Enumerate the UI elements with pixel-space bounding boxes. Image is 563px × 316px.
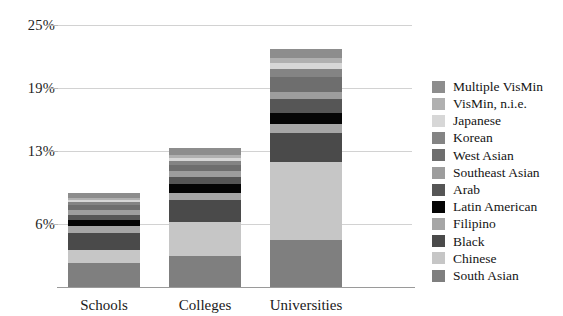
- gridline-19: [57, 88, 412, 89]
- legend-item-label: Korean: [453, 131, 493, 145]
- bar-colleges[interactable]: [169, 148, 241, 287]
- y-axis-labels: 25%19%13%6%: [0, 0, 55, 316]
- legend-item[interactable]: West Asian: [432, 147, 563, 164]
- chart-legend: Multiple VisMinVisMin, n.i.e.JapaneseKor…: [432, 78, 563, 284]
- legend-item[interactable]: South Asian: [432, 267, 563, 284]
- legend-swatch-icon: [432, 252, 445, 264]
- bar-segment[interactable]: [270, 113, 342, 123]
- bar-segment[interactable]: [68, 250, 140, 263]
- y-tick-mark: [48, 224, 58, 225]
- bar-segment[interactable]: [270, 77, 342, 92]
- bar-segment[interactable]: [270, 240, 342, 287]
- gridline-25: [57, 25, 412, 26]
- y-tick-mark: [48, 25, 58, 26]
- legend-item[interactable]: Arab: [432, 181, 563, 198]
- x-axis-line: [57, 287, 415, 288]
- plot-area: [57, 0, 415, 316]
- legend-item-label: Filipino: [453, 217, 496, 231]
- bar-segment[interactable]: [169, 184, 241, 192]
- legend-item[interactable]: Southeast Asian: [432, 164, 563, 181]
- legend-swatch-icon: [432, 149, 445, 161]
- legend-item-label: Black: [453, 235, 485, 249]
- x-axis-label-universities: Universities: [246, 297, 366, 314]
- legend-item[interactable]: Filipino: [432, 216, 563, 233]
- bar-segment[interactable]: [270, 69, 342, 77]
- bar-segment[interactable]: [270, 133, 342, 162]
- legend-swatch-icon: [432, 184, 445, 196]
- bar-universities[interactable]: [270, 49, 342, 287]
- bar-segment[interactable]: [68, 263, 140, 287]
- legend-item-label: Japanese: [453, 114, 501, 128]
- bar-segment[interactable]: [169, 177, 241, 184]
- bar-segment[interactable]: [169, 256, 241, 287]
- bar-segment[interactable]: [270, 124, 342, 133]
- legend-item[interactable]: Multiple VisMin: [432, 78, 563, 95]
- legend-swatch-icon: [432, 201, 445, 213]
- legend-item-label: VisMin, n.i.e.: [453, 97, 527, 111]
- legend-swatch-icon: [432, 218, 445, 230]
- legend-item[interactable]: Japanese: [432, 112, 563, 129]
- bar-segment[interactable]: [270, 162, 342, 240]
- bar-segment[interactable]: [270, 49, 342, 57]
- legend-swatch-icon: [432, 115, 445, 127]
- legend-swatch-icon: [432, 132, 445, 144]
- stacked-bar-chart: 25%19%13%6% SchoolsCollegesUniversities …: [0, 0, 563, 316]
- legend-item-label: Southeast Asian: [453, 166, 540, 180]
- legend-swatch-icon: [432, 167, 445, 179]
- legend-item[interactable]: Korean: [432, 130, 563, 147]
- legend-swatch-icon: [432, 270, 445, 282]
- bar-segment[interactable]: [169, 193, 241, 200]
- legend-item-label: West Asian: [453, 149, 514, 163]
- legend-item[interactable]: Black: [432, 233, 563, 250]
- legend-swatch-icon: [432, 235, 445, 247]
- bar-segment[interactable]: [169, 200, 241, 222]
- legend-swatch-icon: [432, 81, 445, 93]
- legend-item[interactable]: Chinese: [432, 250, 563, 267]
- y-tick-mark: [48, 151, 58, 152]
- legend-item-label: Latin American: [453, 200, 537, 214]
- bar-segment[interactable]: [68, 233, 140, 251]
- bar-segment[interactable]: [169, 148, 241, 155]
- legend-item-label: Arab: [453, 183, 480, 197]
- legend-swatch-icon: [432, 98, 445, 110]
- legend-item-label: Multiple VisMin: [453, 80, 543, 94]
- legend-item-label: Chinese: [453, 252, 497, 266]
- bar-segment[interactable]: [270, 99, 342, 113]
- legend-item-label: South Asian: [453, 269, 519, 283]
- bar-segment[interactable]: [169, 222, 241, 256]
- bar-segment[interactable]: [270, 92, 342, 99]
- legend-item[interactable]: VisMin, n.i.e.: [432, 95, 563, 112]
- bar-schools[interactable]: [68, 193, 140, 287]
- legend-item[interactable]: Latin American: [432, 198, 563, 215]
- y-tick-mark: [48, 88, 58, 89]
